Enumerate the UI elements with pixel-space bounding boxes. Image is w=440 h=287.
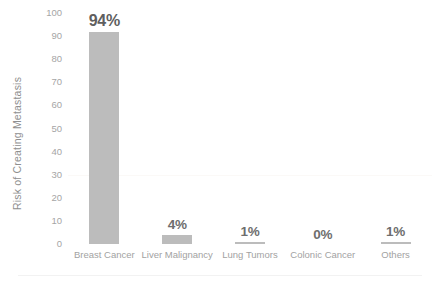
y-tick-label: 0 bbox=[38, 239, 62, 249]
plot-area: 94%4%1%0%1% bbox=[68, 13, 432, 244]
bar-group[interactable]: 1% bbox=[235, 13, 265, 244]
x-axis-tick-labels: Breast CancerLiver MalignancyLung Tumors… bbox=[68, 249, 432, 265]
x-tick-label: Lung Tumors bbox=[222, 249, 277, 260]
bar-value-label: 94% bbox=[89, 13, 120, 29]
y-tick-label: 70 bbox=[38, 78, 62, 88]
x-tick-label: Others bbox=[381, 249, 410, 260]
y-tick-label: 80 bbox=[38, 54, 62, 64]
y-tick-label: 40 bbox=[38, 147, 62, 157]
bar-rect[interactable] bbox=[162, 235, 192, 244]
y-tick-label: 50 bbox=[38, 124, 62, 134]
y-axis-title: Risk of Creating Metastasis bbox=[0, 0, 34, 287]
bar-value-label: 0% bbox=[313, 228, 332, 242]
bar-group[interactable]: 0% bbox=[308, 13, 338, 244]
bar-group[interactable]: 4% bbox=[162, 13, 192, 244]
x-tick-label: Breast Cancer bbox=[74, 249, 135, 260]
bar-chart: Risk of Creating Metastasis 010203040506… bbox=[0, 0, 440, 287]
bar-rect[interactable] bbox=[235, 242, 265, 244]
bar-group[interactable]: 94% bbox=[89, 13, 119, 244]
y-tick-label: 90 bbox=[38, 31, 62, 41]
y-axis-tick-labels: 0102030405060708090100 bbox=[38, 13, 62, 244]
y-tick-label: 100 bbox=[38, 8, 62, 18]
bar-value-label: 1% bbox=[240, 225, 259, 239]
bottom-divider bbox=[18, 275, 422, 276]
bar-rect[interactable] bbox=[381, 242, 411, 244]
bar-value-label: 1% bbox=[386, 225, 405, 239]
x-tick-label: Liver Malignancy bbox=[142, 249, 213, 260]
y-tick-label: 20 bbox=[38, 193, 62, 203]
y-tick-label: 60 bbox=[38, 101, 62, 111]
bar-value-label: 4% bbox=[168, 218, 187, 232]
y-tick-label: 10 bbox=[38, 216, 62, 226]
bar-group[interactable]: 1% bbox=[381, 13, 411, 244]
y-tick-label: 30 bbox=[38, 170, 62, 180]
x-tick-label: Colonic Cancer bbox=[290, 249, 355, 260]
bar-rect[interactable] bbox=[89, 32, 119, 244]
